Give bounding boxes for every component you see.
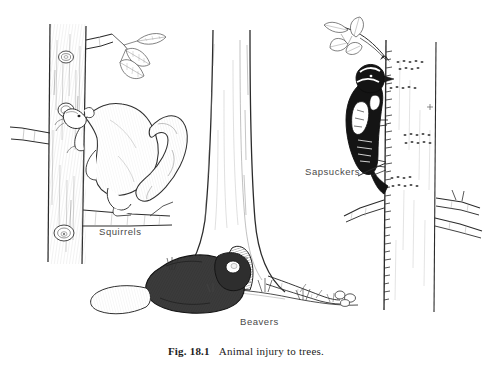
- figure-page: Squirrels Sapsuckers Beavers Fig. 18.1An…: [0, 0, 492, 377]
- label-squirrels: Squirrels: [99, 226, 141, 237]
- figure-title: Animal injury to trees.: [219, 345, 324, 357]
- figure-number: Fig. 18.1: [168, 345, 210, 357]
- label-beavers: Beavers: [240, 316, 279, 327]
- label-sapsuckers: Sapsuckers: [305, 166, 360, 177]
- figure-caption: Fig. 18.1Animal injury to trees.: [0, 345, 492, 357]
- trunk-knot-upper: [59, 51, 74, 63]
- trunk-knot-lower: [54, 225, 74, 241]
